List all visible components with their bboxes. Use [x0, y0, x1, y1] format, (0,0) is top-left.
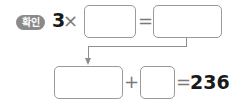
answer-box-2[interactable]: [153, 5, 222, 38]
down-arrow-icon: [85, 58, 91, 65]
confirm-badge: 확인: [16, 15, 45, 30]
equals-symbol-1: =: [138, 10, 153, 32]
times-symbol: ×: [63, 10, 78, 32]
answer-box-3[interactable]: [54, 66, 123, 99]
answer-box-4[interactable]: [140, 66, 175, 99]
plus-symbol: +: [124, 71, 139, 93]
answer-box-1[interactable]: [84, 5, 136, 38]
equals-symbol-2: =: [176, 71, 191, 93]
connector-line-horizontal: [88, 46, 187, 47]
result-value: 236: [190, 71, 230, 93]
